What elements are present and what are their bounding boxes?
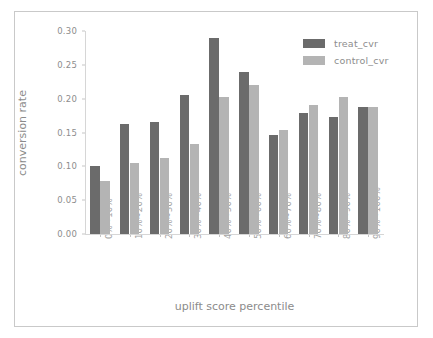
y-tick-label: 0.10 [43,161,77,171]
legend-swatch-icon [303,39,325,48]
x-axis-spine [85,234,384,235]
y-tick-label: 0.00 [43,229,77,239]
y-tick-label: 0.25 [43,60,77,70]
bar-treat_cvr-2 [150,122,160,234]
chart-legend: treat_cvrcontrol_cvr [303,36,389,70]
bar-treat_cvr-9 [358,107,368,234]
x-axis-label: uplift score percentile [85,300,384,313]
bar-treat_cvr-6 [269,135,279,234]
legend-swatch-icon [303,56,325,65]
legend-label: control_cvr [334,55,389,66]
legend-item-control_cvr[interactable]: control_cvr [303,53,389,67]
bar-treat_cvr-8 [329,117,339,234]
y-tick-label: 0.15 [43,128,77,138]
bar-control_cvr-7 [309,105,319,234]
bar-control_cvr-3 [190,144,200,234]
bar-control_cvr-2 [160,158,170,234]
bar-control_cvr-8 [339,97,349,234]
y-tick-label: 0.05 [43,195,77,205]
bar-treat_cvr-7 [299,113,309,234]
legend-item-treat_cvr[interactable]: treat_cvr [303,36,389,50]
bar-treat_cvr-5 [239,72,249,234]
bar-control_cvr-4 [219,97,229,234]
legend-label: treat_cvr [334,38,378,49]
bar-control_cvr-0 [100,181,110,234]
bar-treat_cvr-0 [90,166,100,234]
bar-control_cvr-5 [249,85,259,234]
y-axis-label: conversion rate [16,90,29,176]
bar-control_cvr-9 [368,107,378,234]
y-tick-label: 0.20 [43,94,77,104]
bar-control_cvr-6 [279,130,289,234]
bar-treat_cvr-4 [209,38,219,234]
y-tick-label: 0.30 [43,26,77,36]
bar-treat_cvr-1 [120,124,130,234]
bar-treat_cvr-3 [180,95,190,234]
chart-canvas: conversion rate 0.000.050.100.150.200.25… [0,0,433,338]
bar-control_cvr-1 [130,163,140,234]
